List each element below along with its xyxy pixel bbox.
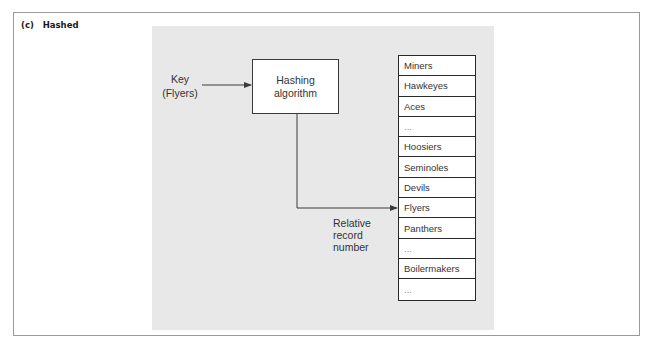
record-row: Boilermakers [399,259,475,279]
relative-record-number-label: Relative record number [333,217,371,253]
record-row: Hawkeyes [399,76,475,96]
record-row: Aces [399,97,475,117]
record-row: ... [399,279,475,299]
hashing-box-line1: Hashing [276,74,315,87]
record-row: Seminoles [399,157,475,177]
hashing-box-line2: algorithm [274,87,317,100]
record-row: ... [399,117,475,137]
key-label-line1: Key [160,72,200,86]
relative-label-line1: Relative [333,217,371,229]
record-row: ... [399,239,475,259]
hashing-algorithm-box: Hashing algorithm [252,59,339,114]
relative-label-line3: number [333,241,371,253]
record-row: Devils [399,178,475,198]
record-row: Panthers [399,218,475,238]
figure-caption: (c) Hashed [21,20,79,30]
record-row: Hoosiers [399,137,475,157]
record-row: Miners [399,56,475,76]
key-label-line2: (Flyers) [160,86,200,100]
record-list: MinersHawkeyesAces...HoosiersSeminolesDe… [398,55,476,301]
record-row-target: Flyers [399,198,475,218]
key-label: Key (Flyers) [160,72,200,100]
relative-label-line2: record [333,229,371,241]
